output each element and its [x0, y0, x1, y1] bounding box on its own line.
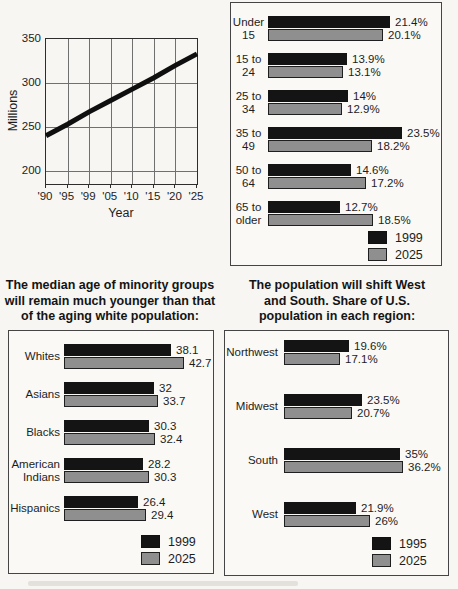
bar-2025 — [64, 395, 158, 407]
title-line: and South. Share of U.S. — [226, 294, 448, 310]
category-label: 50 to64 — [231, 162, 266, 191]
category-label: Whites — [9, 342, 62, 371]
x-tick-mark — [110, 184, 111, 188]
category-label: Midwest — [225, 392, 280, 421]
bar-1999 — [64, 420, 149, 432]
legend-label-1999: 1999 — [168, 535, 200, 549]
bar-1995 — [284, 340, 349, 352]
figure-canvas: Millions Year 350300250200'90'95'99'05'1… — [0, 0, 458, 589]
x-tick-mark — [131, 184, 132, 188]
bar-1999 — [268, 53, 347, 65]
y-tick-label: 200 — [12, 163, 41, 177]
bar-value-label: 12.7% — [345, 200, 378, 214]
bar-value-label: 26.4 — [143, 495, 165, 509]
bar-2025 — [64, 471, 149, 483]
bar-group: 25 to3414%12.9% — [231, 90, 441, 115]
bar-2025 — [284, 407, 352, 419]
bar-value-label: 12.9% — [347, 102, 380, 116]
bar-value-label: 38.1 — [176, 343, 198, 357]
bar-2025 — [268, 29, 383, 41]
bar-value-label: 36.2% — [408, 460, 441, 474]
line-plot-area — [45, 38, 198, 185]
bar-2025 — [64, 433, 155, 445]
bar-group: West21.9%26% — [225, 502, 448, 527]
x-axis-title: Year — [81, 206, 161, 220]
bar-group: 65 toolder12.7%18.5% — [231, 201, 441, 226]
bar-1999 — [268, 164, 351, 176]
legend-label-2025: 2025 — [399, 554, 431, 568]
bar-2025 — [284, 353, 340, 365]
bar-2025 — [268, 140, 372, 152]
bar-value-label: 19.6% — [354, 339, 387, 353]
age-share-chart-box: Under1521.4%20.1%15 to2413.9%13.1%25 to3… — [230, 2, 442, 266]
legend-swatch-2025 — [368, 248, 387, 261]
category-label: Blacks — [9, 418, 62, 447]
scan-artifact — [28, 581, 298, 586]
median-age-legend: 1999 2025 — [141, 533, 200, 567]
bar-value-label: 32.4 — [160, 432, 182, 446]
bar-value-label: 17.2% — [371, 176, 404, 190]
category-label: South — [225, 446, 280, 475]
bar-value-label: 20.1% — [388, 28, 421, 42]
bar-2025 — [268, 66, 343, 78]
bar-1995 — [284, 448, 400, 460]
bar-group: 50 to6414.6%17.2% — [231, 164, 441, 189]
x-tick-mark — [174, 184, 175, 188]
category-label: 15 to24 — [231, 51, 266, 80]
y-tick-label: 350 — [12, 31, 41, 45]
bar-group: Blacks30.332.4 — [9, 420, 213, 445]
median-age-chart-title: The median age of minority groups will r… — [2, 278, 218, 325]
legend-item-1995: 1995 — [372, 535, 431, 552]
legend-label-1999: 1999 — [395, 231, 427, 245]
bar-value-label: 26% — [375, 514, 398, 528]
bar-1999 — [64, 344, 171, 356]
bar-2025 — [268, 214, 373, 226]
category-label: West — [225, 500, 280, 529]
bar-2025 — [284, 515, 370, 527]
bar-value-label: 28.2 — [148, 457, 170, 471]
legend-swatch-1995 — [372, 537, 391, 550]
legend-label-2025: 2025 — [395, 248, 427, 262]
bar-value-label: 17.1% — [345, 352, 378, 366]
bar-2025 — [268, 103, 342, 115]
bar-1999 — [268, 16, 390, 28]
title-line: of the aging white population: — [2, 309, 218, 325]
age-share-bars: Under1521.4%20.1%15 to2413.9%13.1%25 to3… — [231, 3, 441, 265]
category-label: AmericanIndians — [9, 456, 62, 485]
region-share-legend: 1995 2025 — [372, 535, 431, 569]
bar-value-label: 13.1% — [348, 65, 381, 79]
title-line: The median age of minority groups — [2, 278, 218, 294]
bar-value-label: 30.3 — [154, 470, 176, 484]
bar-group: AmericanIndians28.230.3 — [9, 458, 213, 483]
category-label: Northwest — [225, 338, 280, 367]
median-age-chart-box: Whites38.142.7Asians3233.7Blacks30.332.4… — [8, 330, 214, 574]
legend-item-2025: 2025 — [368, 246, 427, 263]
legend-swatch-2025 — [141, 552, 160, 565]
bar-group: 15 to2413.9%13.1% — [231, 53, 441, 78]
x-tick-mark — [153, 184, 154, 188]
bar-group: Hispanics26.429.4 — [9, 496, 213, 521]
population-line-chart: Millions Year 350300250200'90'95'99'05'1… — [0, 0, 230, 235]
bar-group: Whites38.142.7 — [9, 344, 213, 369]
category-label: Hispanics — [9, 494, 62, 523]
bar-2025 — [64, 357, 184, 369]
bar-1995 — [284, 502, 356, 514]
bar-group: Asians3233.7 — [9, 382, 213, 407]
bar-value-label: 14% — [353, 89, 376, 103]
category-label: 65 toolder — [231, 199, 266, 228]
bar-group: 35 to4923.5%18.2% — [231, 127, 441, 152]
bar-1999 — [64, 458, 143, 470]
x-tick-label: '25 — [182, 189, 210, 203]
title-line: population in each region: — [226, 309, 448, 325]
category-label: Under15 — [231, 14, 266, 43]
category-label: 35 to49 — [231, 125, 266, 154]
bar-1999 — [268, 201, 340, 213]
bar-1999 — [268, 90, 348, 102]
y-tick-label: 300 — [12, 75, 41, 89]
legend-label-2025: 2025 — [168, 552, 200, 566]
bar-value-label: 20.7% — [357, 406, 390, 420]
bar-2025 — [268, 177, 366, 189]
legend-swatch-1999 — [368, 231, 387, 244]
bar-group: Midwest23.5%20.7% — [225, 394, 448, 419]
bar-2025 — [64, 509, 146, 521]
